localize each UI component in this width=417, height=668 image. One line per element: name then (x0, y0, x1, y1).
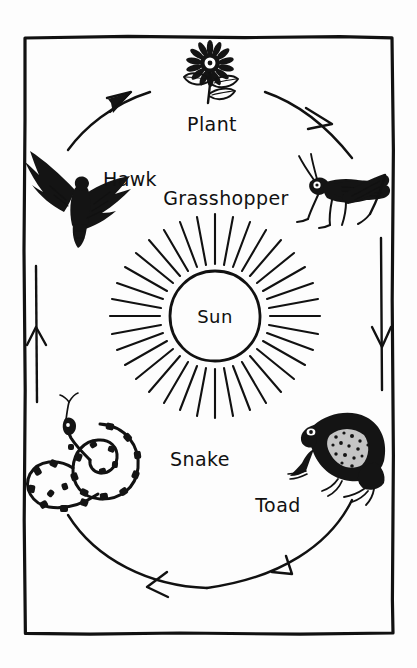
node-label-plant: Plant (187, 113, 237, 135)
sun-label: Sun (197, 306, 232, 327)
node-label-snake: Snake (170, 448, 230, 470)
node-label-hawk: Hawk (103, 168, 157, 190)
arrow-toad-to-snake (68, 515, 207, 597)
node-label-grasshopper: Grasshopper (163, 187, 289, 209)
arrow-grasshopper-to-toad (372, 238, 391, 390)
arrow-hawk-to-plant (68, 92, 150, 150)
node-label-toad: Toad (254, 494, 300, 516)
toad-illustration (288, 413, 385, 505)
food-chain-cycle-diagram: Sun (0, 0, 417, 668)
grasshopper-illustration (297, 154, 390, 228)
arrow-plant-to-grasshopper (265, 92, 352, 158)
plant-illustration (184, 40, 238, 103)
hawk-illustration (25, 151, 131, 248)
arrow-snake-to-hawk (27, 266, 46, 402)
snake-illustration (27, 393, 141, 512)
